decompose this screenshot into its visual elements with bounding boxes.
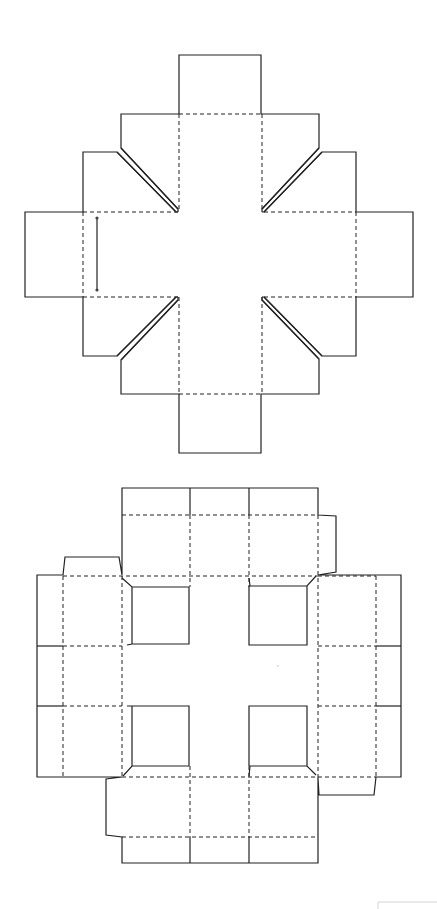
slot-bottom-left-a — [121, 300, 178, 360]
slot-top-right-a — [262, 148, 319, 209]
tray-box-net — [37, 488, 401, 863]
slot-bottom-right-a — [262, 300, 319, 359]
slot-top-right-b — [264, 152, 322, 212]
window-top-right — [249, 576, 316, 645]
slot-top-left-a — [121, 148, 178, 209]
stray-mark — [277, 665, 279, 667]
score-endpoint-bottom — [95, 288, 98, 291]
faint-frame-corner — [378, 902, 437, 909]
dieline-canvas — [0, 0, 437, 909]
slot-top-left-b — [117, 152, 176, 212]
cross-lid-net — [25, 55, 413, 453]
slot-bottom-right-b — [264, 297, 322, 356]
window-top-left — [122, 578, 189, 645]
score-endpoint-top — [95, 216, 98, 219]
slot-bottom-left-b — [117, 297, 176, 356]
tray-net-outline — [37, 488, 401, 863]
window-bottom-right — [249, 706, 316, 776]
window-bottom-left — [123, 706, 189, 776]
